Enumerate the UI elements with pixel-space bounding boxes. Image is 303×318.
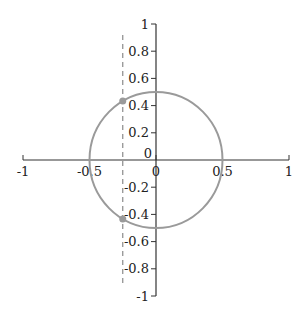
- intersection-point: [119, 215, 126, 222]
- y-tick-label: 0.4: [128, 98, 149, 113]
- chart-canvas: -1-0.500.51 10.80.60.40.20-0.2-0.4-0.6-0…: [0, 0, 303, 318]
- y-tick-label: -0.6: [124, 234, 149, 249]
- y-tick-label: -0.4: [124, 207, 149, 222]
- y-tick-label: -0.2: [124, 180, 149, 195]
- y-tick-label: -0.8: [124, 261, 149, 276]
- x-tick-label: 1: [285, 164, 293, 179]
- x-tick-label: -1: [17, 164, 30, 179]
- y-tick-label: 0: [144, 146, 152, 161]
- y-tick-label: 1: [141, 17, 149, 32]
- intersection-point: [119, 98, 126, 105]
- y-tick-label: 0.6: [128, 71, 149, 86]
- x-tick-label: 0: [152, 164, 160, 179]
- y-tick-label: 0.8: [128, 44, 149, 59]
- y-tick-label: 0.2: [128, 125, 149, 140]
- x-axis-ticks: -1-0.500.51: [17, 155, 293, 179]
- y-tick-label: -1: [136, 289, 149, 304]
